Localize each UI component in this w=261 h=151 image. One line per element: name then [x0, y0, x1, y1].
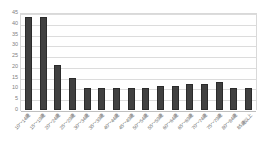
- y-axis-tick-label: 30: [12, 43, 18, 49]
- x-slot: 25～29歳: [65, 111, 80, 151]
- y-axis-tick-label: 45: [12, 10, 18, 16]
- y-axis-tick-label: 0: [15, 107, 18, 113]
- x-slot: 60～64歳: [169, 111, 184, 151]
- bar-slot: [21, 14, 36, 110]
- bar-slot: [94, 14, 109, 110]
- bar: [54, 65, 61, 110]
- y-axis-tick-label: 35: [12, 32, 18, 38]
- bar-slot: [153, 14, 168, 110]
- bar-slot: [241, 14, 256, 110]
- bar: [69, 78, 76, 110]
- bar: [216, 82, 223, 110]
- bar: [98, 88, 105, 110]
- bar-slot: [36, 14, 51, 110]
- plot-area: [21, 13, 257, 110]
- x-slot: 30～34歳: [80, 111, 95, 151]
- x-slot: 80～84歳: [228, 111, 243, 151]
- bar: [230, 88, 237, 110]
- y-axis-tick-label: 25: [12, 53, 18, 59]
- y-axis: 454035302520151050: [0, 13, 21, 111]
- bar-slot: [139, 14, 154, 110]
- bar-slot: [212, 14, 227, 110]
- bar: [40, 17, 47, 110]
- bar-series: [21, 14, 256, 110]
- y-axis-tick-label: 15: [12, 75, 18, 81]
- x-slot: 45～49歳: [124, 111, 139, 151]
- bar-slot: [50, 14, 65, 110]
- bar-slot: [197, 14, 212, 110]
- bar-slot: [65, 14, 80, 110]
- x-slot: 65～69歳: [183, 111, 198, 151]
- bar: [113, 88, 120, 110]
- bar-slot: [80, 14, 95, 110]
- x-slot: 75～79歳: [213, 111, 228, 151]
- x-slot: 55～59歳: [154, 111, 169, 151]
- x-slot: 15～19歳: [36, 111, 51, 151]
- bar-slot: [109, 14, 124, 110]
- y-axis-tick-label: 40: [12, 21, 18, 27]
- bar-chart: 454035302520151050 10～14歳15～19歳20～24歳25～…: [0, 0, 261, 151]
- bar: [25, 17, 32, 110]
- bar-slot: [227, 14, 242, 110]
- y-axis-tick-label: 10: [12, 86, 18, 92]
- bar-slot: [124, 14, 139, 110]
- x-slot: 70～74歳: [198, 111, 213, 151]
- bar-slot: [183, 14, 198, 110]
- bar: [186, 84, 193, 110]
- x-slot: 10～14歳: [21, 111, 36, 151]
- bar: [245, 88, 252, 110]
- x-slot: 20～24歳: [51, 111, 66, 151]
- bar: [201, 84, 208, 110]
- bar: [172, 86, 179, 110]
- bar: [157, 86, 164, 110]
- bar-slot: [168, 14, 183, 110]
- x-slot: 40～44歳: [110, 111, 125, 151]
- y-axis-tick-label: 5: [15, 96, 18, 102]
- bar: [142, 88, 149, 110]
- x-slot: 35～39歳: [95, 111, 110, 151]
- bar: [128, 88, 135, 110]
- x-slot: 85歳以上: [242, 111, 257, 151]
- y-axis-tick-label: 20: [12, 64, 18, 70]
- x-axis-tick-labels: 10～14歳15～19歳20～24歳25～29歳30～34歳35～39歳40～4…: [21, 111, 257, 151]
- x-slot: 50～54歳: [139, 111, 154, 151]
- bar: [84, 88, 91, 110]
